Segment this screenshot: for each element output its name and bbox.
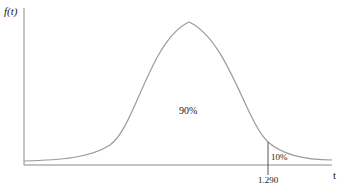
density-curve — [24, 22, 332, 161]
center-area-label: 90% — [179, 106, 197, 116]
tail-area-label: 10% — [271, 153, 288, 162]
density-chart — [0, 0, 358, 191]
y-axis-label: f(t) — [4, 6, 17, 17]
x-axis-label: t — [333, 170, 336, 181]
critical-value-tick-label: 1.290 — [258, 176, 278, 185]
